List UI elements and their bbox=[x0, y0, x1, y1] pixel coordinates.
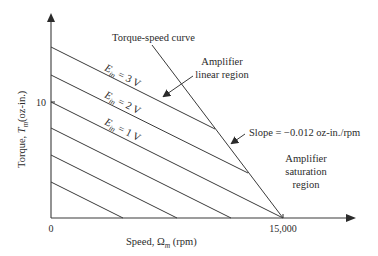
voltage-line-5 bbox=[51, 155, 177, 218]
ein-1v-label: Ein = 1 V bbox=[101, 116, 143, 146]
origin-label: 0 bbox=[49, 223, 54, 234]
x-axis-label: Speed, Ωm (rpm) bbox=[126, 236, 197, 250]
y-axis-label: Torque, Tm(oz-in.) bbox=[16, 90, 30, 168]
slope-label: Slope = −0.012 oz-in./rpm bbox=[249, 127, 360, 138]
svg-text:Ein = 1 V: Ein = 1 V bbox=[101, 116, 143, 146]
y-tick-label: 10 bbox=[36, 97, 46, 108]
voltage-line-3v bbox=[51, 47, 215, 129]
x-tick-label: 15,000 bbox=[269, 223, 297, 234]
x-axis-arrow-icon bbox=[346, 214, 356, 222]
ein-3v-label: Ein = 3 V bbox=[101, 62, 143, 92]
voltage-line-6 bbox=[51, 182, 123, 218]
linear-region-label-line1: Amplifier bbox=[201, 56, 243, 67]
svg-text:Torque, Tm(oz-in.): Torque, Tm(oz-in.) bbox=[16, 90, 30, 168]
slope-arrow-icon bbox=[232, 134, 245, 143]
linear-region-label-line2: linear region bbox=[195, 69, 249, 80]
svg-text:Ein = 2 V: Ein = 2 V bbox=[101, 89, 143, 119]
voltage-line-2v bbox=[51, 75, 248, 173]
voltage-line-4 bbox=[51, 128, 231, 218]
torque-speed-curve-label: Torque-speed curve bbox=[112, 32, 195, 43]
saturation-region-label-line3: region bbox=[293, 179, 321, 190]
ein-2v-label: Ein = 2 V bbox=[101, 89, 143, 119]
svg-text:Ein = 3 V: Ein = 3 V bbox=[101, 62, 143, 92]
saturation-region-label-line1: Amplifier bbox=[285, 153, 327, 164]
voltage-line-1v bbox=[51, 102, 283, 218]
y-axis-arrow-icon bbox=[47, 13, 55, 22]
saturation-region-label-line2: saturation bbox=[285, 166, 327, 177]
torque-speed-diagram: 10 0 15,000 Torque-speed curve Amplifier… bbox=[0, 0, 378, 256]
